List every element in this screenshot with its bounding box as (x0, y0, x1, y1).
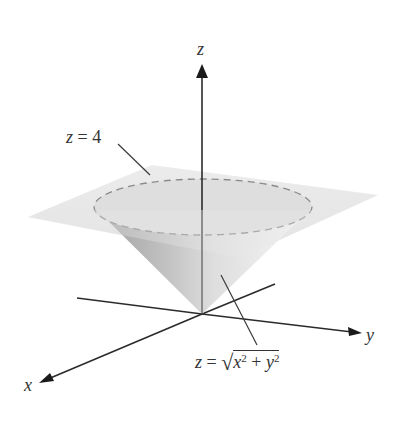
y-axis (202, 314, 352, 332)
x-axis (48, 314, 202, 379)
y-axis-label: y (366, 326, 374, 344)
z-axis-label: z (197, 40, 204, 58)
cone-eq-radicand: x2 + y2 (233, 350, 279, 372)
cone-eq-equals: = (202, 352, 221, 372)
cone-leader-line (221, 275, 257, 345)
plane-eq-rhs: 4 (92, 127, 101, 147)
plane-eq-lhs: z (66, 127, 73, 147)
radicand-plus: + (247, 352, 266, 372)
y-axis-arrowhead-icon (348, 327, 362, 336)
plane-leader-line (118, 144, 150, 175)
cone-equation-label: z = √x2 + y2 (195, 350, 279, 372)
sqrt-icon: √ (221, 350, 233, 375)
x-axis-label: x (24, 376, 32, 394)
radicand-y: y (266, 352, 274, 372)
radicand-y-exponent: 2 (274, 352, 280, 364)
z-axis-arrowhead-icon (196, 64, 208, 78)
x-axis-arrowhead-icon (39, 373, 54, 383)
cone-eq-lhs: z (195, 352, 202, 372)
plane-equation-label: z = 4 (66, 128, 101, 146)
y-axis-back (77, 298, 202, 314)
plane-eq-equals: = (73, 127, 92, 147)
